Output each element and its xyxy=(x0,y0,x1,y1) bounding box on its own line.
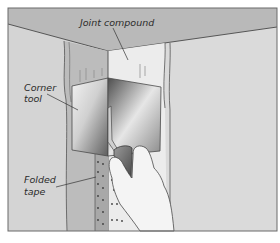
corner-tool-right-blade xyxy=(108,78,161,156)
label-joint-compound: Joint compound xyxy=(78,17,155,28)
corner-tool-illustration: Joint compound Corner tool Folded tape xyxy=(0,0,280,243)
folded-tape xyxy=(95,154,108,231)
label-corner-tool-line1: Corner xyxy=(24,82,57,93)
corner-tool-left-blade xyxy=(72,78,108,156)
illustration-canvas: Joint compound Corner tool Folded tape xyxy=(0,0,280,243)
label-folded-tape-line2: tape xyxy=(24,186,46,197)
label-folded-tape-line1: Folded xyxy=(24,174,57,185)
label-corner-tool-line2: tool xyxy=(24,93,42,104)
